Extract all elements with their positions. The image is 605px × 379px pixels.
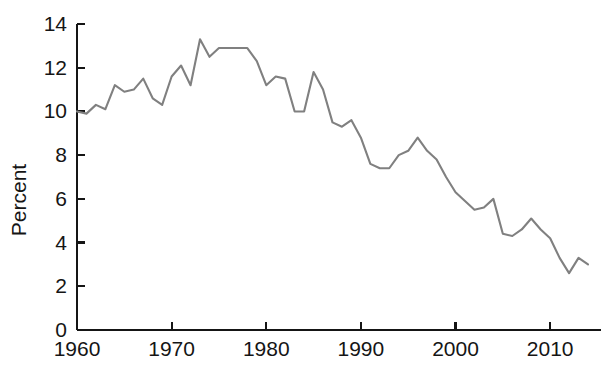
y-tick-label: 2 xyxy=(55,274,67,297)
y-tick-label: 4 xyxy=(55,231,67,254)
y-axis-ticks xyxy=(77,24,85,330)
y-axis-label-group: Percent xyxy=(7,164,30,237)
x-axis-ticks xyxy=(77,322,550,330)
data-series-line xyxy=(77,39,588,273)
y-axis-label: Percent xyxy=(7,164,30,237)
y-tick-label: 12 xyxy=(44,56,67,79)
x-tick-label: 2000 xyxy=(432,337,479,360)
saving-rate-line-chart: Percent 02468101214 19601970198019902000… xyxy=(0,0,605,379)
x-axis-tick-labels: 196019701980199020002010 xyxy=(54,337,574,360)
y-axis-tick-labels: 02468101214 xyxy=(44,12,68,341)
y-tick-label: 8 xyxy=(55,143,67,166)
x-tick-label: 1980 xyxy=(243,337,290,360)
x-tick-label: 1970 xyxy=(148,337,195,360)
y-tick-label: 10 xyxy=(44,99,67,122)
x-tick-label: 2010 xyxy=(527,337,574,360)
y-tick-label: 6 xyxy=(55,187,67,210)
axes-group xyxy=(77,24,601,330)
x-tick-label: 1990 xyxy=(338,337,385,360)
chart-canvas: Percent 02468101214 19601970198019902000… xyxy=(0,0,605,379)
x-tick-label: 1960 xyxy=(54,337,101,360)
y-tick-label: 14 xyxy=(44,12,68,35)
